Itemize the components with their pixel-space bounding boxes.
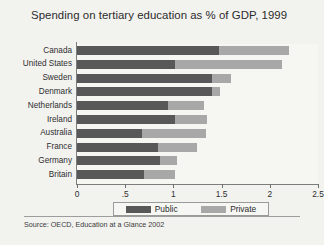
category-label: Britain	[0, 170, 72, 179]
bar-segment-private	[175, 115, 207, 124]
x-tick-label: 2	[267, 189, 272, 199]
x-tick-mark	[125, 184, 126, 188]
source-note: Source: OECD, Education at a Glance 2002	[24, 220, 164, 229]
legend-item-public: Public	[126, 204, 178, 214]
category-label: France	[0, 142, 72, 151]
page-title: Spending on tertiary education as % of G…	[31, 9, 321, 21]
x-tick-label: 1	[171, 189, 176, 199]
source-divider	[24, 216, 300, 217]
bar-segment-private	[212, 74, 231, 83]
bar-segment-private	[175, 60, 282, 69]
legend-item-private: Private	[201, 204, 256, 214]
bar-segment-public	[77, 101, 168, 110]
bar-segment-private	[144, 170, 176, 179]
legend-label: Private	[230, 204, 256, 214]
chart-figure: Spending on tertiary education as % of G…	[0, 0, 324, 245]
category-label: Canada	[0, 46, 72, 55]
bar-segment-private	[168, 101, 205, 110]
bar-segment-private	[160, 156, 177, 165]
bar-segment-public	[77, 60, 175, 69]
x-tick-label: 0	[75, 189, 80, 199]
x-tick-mark	[222, 184, 223, 188]
category-label: Denmark	[0, 87, 72, 96]
x-tick-mark	[270, 184, 271, 188]
x-tick-label: .5	[122, 189, 129, 199]
x-tick-mark	[173, 184, 174, 188]
x-tick-mark	[318, 184, 319, 188]
category-label: Netherlands	[0, 101, 72, 110]
x-tick-label: 1.5	[216, 189, 228, 199]
bar-segment-private	[212, 87, 220, 96]
bar-segment-public	[77, 156, 160, 165]
x-axis-line	[76, 184, 318, 185]
legend-swatch-icon	[201, 206, 226, 213]
bar-segment-public	[77, 129, 142, 138]
x-tick-mark	[77, 184, 78, 188]
bar-segment-private	[142, 129, 207, 138]
chart-legend: PublicPrivate	[113, 202, 269, 216]
bar-segment-public	[77, 87, 212, 96]
bar-segment-public	[77, 46, 219, 55]
bar-segment-public	[77, 115, 175, 124]
category-label: Ireland	[0, 115, 72, 124]
bar-segment-public	[77, 143, 158, 152]
bar-segment-public	[77, 74, 212, 83]
category-label: United States	[0, 59, 72, 68]
legend-label: Public	[155, 204, 178, 214]
bar-segment-private	[158, 143, 197, 152]
category-label: Australia	[0, 128, 72, 137]
bar-segment-public	[77, 170, 144, 179]
legend-swatch-icon	[126, 206, 151, 213]
category-label: Germany	[0, 156, 72, 165]
category-label: Sweden	[0, 73, 72, 82]
x-tick-label: 2.5	[312, 189, 324, 199]
bar-segment-private	[219, 46, 289, 55]
